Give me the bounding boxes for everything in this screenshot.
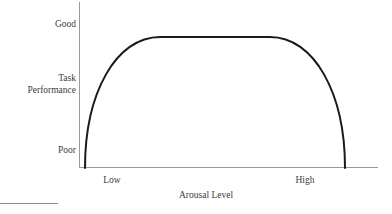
y-axis-tick-label-good: Good [55, 19, 76, 30]
y-axis-title-line-2: Performance [27, 84, 76, 96]
x-axis-tick-label-high: High [296, 175, 315, 186]
y-axis-title-line-1: Task [27, 72, 76, 84]
yerkes-dodson-chart: Good Task Performance Poor Low High Arou… [0, 0, 392, 214]
y-axis-tick-label-poor: Poor [58, 145, 76, 156]
x-axis-tick-label-low: Low [103, 175, 120, 186]
performance-curve-layer [0, 0, 392, 214]
footer-divider-rule [0, 203, 58, 204]
inverted-u-curve [85, 37, 345, 168]
y-axis-line [79, 2, 80, 168]
x-axis-title: Arousal Level [179, 190, 233, 201]
x-axis-line [79, 167, 378, 168]
y-axis-title: Task Performance [27, 72, 76, 96]
